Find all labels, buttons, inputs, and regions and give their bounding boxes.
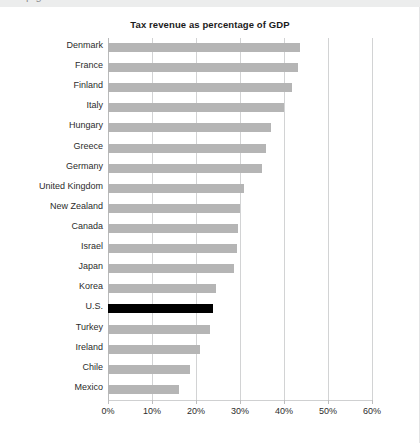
axis-tick — [240, 400, 241, 404]
clipped-page-header-strip: p g — [0, 0, 420, 7]
bar-korea — [108, 284, 216, 293]
bar-row: Greece — [108, 139, 372, 159]
category-label: Korea — [79, 280, 103, 292]
gridline-60pct — [372, 38, 373, 400]
axis-tick — [328, 400, 329, 404]
bar-row: Japan — [108, 259, 372, 279]
bar-row: Denmark — [108, 38, 372, 58]
axis-tick-label: 50% — [319, 406, 337, 416]
axis-tick — [152, 400, 153, 404]
category-label: France — [75, 59, 103, 71]
bar-hungary — [108, 123, 271, 132]
chart-title: Tax revenue as percentage of GDP — [0, 19, 420, 30]
bar-ireland — [108, 345, 200, 354]
axis-tick-label: 60% — [363, 406, 381, 416]
category-label: Mexico — [74, 381, 103, 393]
bar-new-zealand — [108, 204, 240, 213]
category-label: Hungary — [69, 119, 103, 131]
bar-united-kingdom — [108, 184, 244, 193]
bar-italy — [108, 103, 284, 112]
bar-israel — [108, 244, 237, 253]
bar-row: Canada — [108, 219, 372, 239]
bar-mexico — [108, 385, 179, 394]
category-label: Greece — [73, 140, 103, 152]
bar-row: Hungary — [108, 118, 372, 138]
bar-finland — [108, 83, 292, 92]
category-label: U.S. — [85, 300, 103, 312]
bar-chart-plot-area: DenmarkFranceFinlandItalyHungaryGreeceGe… — [108, 38, 372, 400]
bar-row: New Zealand — [108, 199, 372, 219]
category-label: Denmark — [66, 39, 103, 51]
category-label: Italy — [86, 99, 103, 111]
bar-turkey — [108, 325, 210, 334]
category-label: New Zealand — [50, 200, 103, 212]
category-label: United Kingdom — [39, 180, 103, 192]
axis-tick — [196, 400, 197, 404]
bar-row: Turkey — [108, 320, 372, 340]
bar-row: France — [108, 58, 372, 78]
axis-tick — [108, 400, 109, 404]
bar-row: Finland — [108, 78, 372, 98]
axis-tick-label: 0% — [101, 406, 114, 416]
bar-row: Germany — [108, 159, 372, 179]
bar-canada — [108, 224, 238, 233]
axis-tick-label: 40% — [275, 406, 293, 416]
bar-row: Ireland — [108, 340, 372, 360]
bar-row: Italy — [108, 98, 372, 118]
bar-france — [108, 63, 298, 72]
axis-tick-label: 10% — [143, 406, 161, 416]
category-label: Japan — [78, 260, 103, 272]
bar-u-s — [108, 304, 213, 313]
bar-row: Chile — [108, 360, 372, 380]
category-label: Israel — [81, 240, 103, 252]
axis-tick-label: 20% — [187, 406, 205, 416]
category-label: Germany — [66, 160, 103, 172]
category-label: Canada — [71, 220, 103, 232]
bar-row: Israel — [108, 239, 372, 259]
axis-tick-label: 30% — [231, 406, 249, 416]
clipped-header-text: p g — [26, 0, 42, 2]
category-label: Chile — [82, 361, 103, 373]
bar-chile — [108, 365, 190, 374]
bar-row: U.S. — [108, 299, 372, 319]
category-label: Finland — [73, 79, 103, 91]
category-label: Turkey — [76, 321, 103, 333]
axis-tick — [372, 400, 373, 404]
bar-row: United Kingdom — [108, 179, 372, 199]
axis-tick — [284, 400, 285, 404]
bar-japan — [108, 264, 234, 273]
bar-greece — [108, 144, 266, 153]
chart-card: Tax revenue as percentage of GDP Denmark… — [0, 7, 420, 443]
page: p g Tax revenue as percentage of GDP Den… — [0, 0, 420, 443]
bar-row: Korea — [108, 279, 372, 299]
category-label: Ireland — [75, 341, 103, 353]
bar-denmark — [108, 43, 300, 52]
bar-germany — [108, 164, 262, 173]
bar-row: Mexico — [108, 380, 372, 400]
